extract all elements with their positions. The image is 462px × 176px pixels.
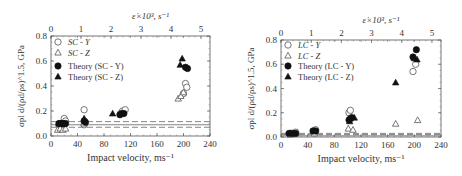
top-x-tick-label: 4 [169, 24, 174, 34]
filled-circle-marker [184, 65, 190, 71]
top-x-tick-label: 2 [109, 24, 114, 34]
filled-triangle-marker [81, 115, 87, 121]
filled-circle-marker [413, 47, 419, 53]
filled-triangle-marker [392, 79, 398, 85]
x-tick-label: 200 [408, 140, 422, 150]
top-x-tick-label: 1 [309, 28, 314, 38]
open-circle-marker [285, 42, 291, 48]
y-tick-label: 0.4 [36, 81, 48, 91]
y-tick-label: 0.0 [36, 131, 48, 141]
x-axis-label: Impact velocity, ms⁻¹ [318, 153, 405, 164]
top-x-tick-label: 0 [279, 28, 284, 38]
open-circle-marker [81, 107, 87, 113]
top-x-tick-label: 3 [139, 24, 144, 34]
filled-triangle-marker [285, 73, 291, 79]
x-tick-label: 160 [381, 140, 395, 150]
open-triangle-marker [414, 117, 420, 123]
y-tick-label: 0.0 [266, 132, 278, 142]
top-x-axis-label: ε̇×10³, s⁻¹ [132, 11, 169, 21]
x-tick-label: 0 [49, 139, 54, 149]
filled-triangle-marker [179, 55, 185, 61]
legend-label: SC - Z [68, 48, 90, 58]
x-tick-label: 120 [124, 139, 138, 149]
top-x-tick-label: 2 [339, 28, 344, 38]
y-axis-label: σpl d/(ρd/ρs)^1.5, GPa [246, 47, 256, 129]
open-circle-marker [184, 84, 190, 90]
filled-circle-marker [121, 110, 127, 116]
y-tick-label: 0.6 [36, 56, 48, 66]
y-tick-label: 0.4 [266, 84, 278, 94]
y-tick-label: 0.8 [266, 35, 278, 45]
legend-label: Theory (SC - Y) [68, 61, 124, 71]
chart-panel-right: 040801201602002400123450.00.20.40.60.8Im… [246, 15, 448, 164]
legend-label: SC - Y [68, 37, 91, 47]
open-triangle-marker [392, 120, 398, 126]
top-x-axis-label: ε̇×10³, s⁻¹ [363, 15, 400, 25]
y-tick-label: 0.2 [36, 106, 47, 116]
open-circle-marker [347, 107, 353, 113]
legend-label: LC - Z [297, 51, 320, 61]
open-circle-marker [410, 68, 416, 74]
legend: LC - YLC - ZTheory (LC - Y)Theory (LC - … [285, 40, 354, 82]
x-tick-label: 80 [330, 140, 340, 150]
y-tick-label: 0.2 [266, 108, 277, 118]
figure: 040801201602002400123450.00.20.40.60.8Im… [0, 0, 462, 176]
x-tick-label: 80 [100, 139, 110, 149]
x-tick-label: 120 [354, 140, 368, 150]
legend-label: Theory (LC - Z) [298, 72, 354, 82]
filled-circle-marker [285, 63, 291, 69]
x-tick-label: 160 [150, 139, 164, 149]
y-tick-label: 0.6 [266, 59, 278, 69]
y-tick-label: 0.8 [36, 31, 48, 41]
top-x-tick-label: 4 [400, 28, 405, 38]
top-x-tick-label: 5 [199, 24, 204, 34]
y-axis-label: σpl d/(ρd/ρs)^1.5, GPa [16, 45, 26, 127]
x-tick-label: 0 [279, 140, 284, 150]
top-x-tick-label: 1 [79, 24, 84, 34]
x-tick-label: 240 [203, 139, 217, 149]
x-tick-label: 240 [434, 140, 448, 150]
filled-circle-marker [55, 63, 61, 69]
top-x-tick-label: 3 [369, 28, 374, 38]
x-tick-label: 40 [73, 139, 83, 149]
legend-label: Theory (SC - Z) [68, 72, 123, 82]
filled-triangle-marker [109, 110, 115, 116]
x-tick-label: 40 [303, 140, 313, 150]
top-x-tick-label: 0 [49, 24, 54, 34]
legend: SC - YSC - ZTheory (SC - Y)Theory (SC - … [55, 37, 124, 82]
x-tick-label: 200 [177, 139, 191, 149]
filled-triangle-marker [55, 73, 61, 79]
open-triangle-marker [55, 49, 61, 55]
chart-canvas: 040801201602002400123450.00.20.40.60.8Im… [0, 0, 462, 176]
open-triangle-marker [285, 52, 291, 58]
top-x-tick-label: 5 [430, 28, 435, 38]
legend-label: LC - Y [297, 40, 321, 50]
chart-panel-left: 040801201602002400123450.00.20.40.60.8Im… [16, 11, 217, 163]
filled-triangle-marker [177, 62, 183, 68]
x-axis-label: Impact velocity, ms⁻¹ [87, 152, 174, 163]
series-sc-y [56, 80, 190, 128]
legend-label: Theory (LC - Y) [298, 61, 354, 71]
open-circle-marker [55, 39, 61, 45]
